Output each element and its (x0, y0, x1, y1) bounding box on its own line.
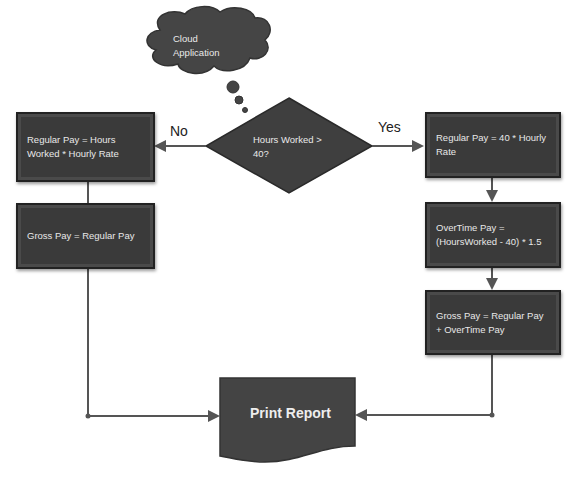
no-label: No (170, 123, 188, 139)
left-regular-pay-text: Regular Pay = Hours Worked * Hourly Rate (27, 133, 144, 161)
overtime-pay-box: OverTime Pay = (HoursWorked - 40) * 1.5 (425, 202, 561, 268)
decision-line-2: 40? (253, 147, 322, 161)
left-regular-pay-box: Regular Pay = Hours Worked * Hourly Rate (16, 112, 155, 182)
print-report-label: Print Report (250, 405, 331, 421)
yes-label: Yes (378, 119, 401, 135)
left-gross-pay-box: Gross Pay = Regular Pay (16, 203, 155, 269)
cloud-line-1: Cloud (173, 32, 219, 46)
decision-line-1: Hours Worked > (253, 133, 322, 147)
right-gross-pay-text: Gross Pay = Regular Pay + OverTime Pay (436, 309, 550, 337)
decision-label: Hours Worked > 40? (253, 133, 322, 161)
right-gross-pay-box: Gross Pay = Regular Pay + OverTime Pay (425, 290, 561, 355)
left-gross-pay-text: Gross Pay = Regular Pay (27, 229, 134, 243)
overtime-pay-text: OverTime Pay = (HoursWorked - 40) * 1.5 (436, 221, 550, 249)
right-regular-pay-text: Regular Pay = 40 * Hourly Rate (436, 131, 550, 159)
right-regular-pay-box: Regular Pay = 40 * Hourly Rate (425, 112, 561, 178)
cloud-line-2: Application (173, 46, 219, 60)
cloud-application-label: Cloud Application (173, 32, 219, 60)
